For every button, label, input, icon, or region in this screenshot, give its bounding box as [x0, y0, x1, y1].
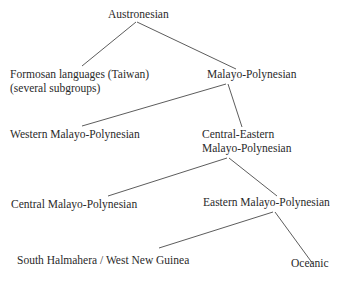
- edge-austronesian-formosan: [82, 22, 136, 66]
- node-label: Malayo-Polynesian: [207, 68, 296, 80]
- node-label: Austronesian: [108, 8, 169, 20]
- node-sublabel: Malayo-Polynesian: [202, 142, 291, 156]
- node-oceanic: Oceanic: [291, 257, 329, 271]
- node-label: Western Malayo-Polynesian: [10, 128, 140, 140]
- node-central-mp: Central Malayo-Polynesian: [11, 198, 137, 212]
- node-sublabel: (several subgroups): [10, 82, 149, 96]
- edge-eastern-shwng: [159, 212, 273, 248]
- edge-austronesian-malayo-polynesian: [137, 22, 236, 69]
- node-label: Formosan languages (Taiwan): [10, 68, 149, 82]
- node-formosan: Formosan languages (Taiwan) (several sub…: [10, 68, 149, 95]
- node-label: Eastern Malayo-Polynesian: [203, 196, 330, 208]
- edge-central-eastern-eastern: [229, 158, 277, 196]
- node-central-eastern-mp: Central-Eastern Malayo-Polynesian: [202, 128, 291, 155]
- node-shwng: South Halmahera / West New Guinea: [17, 254, 189, 268]
- node-eastern-mp: Eastern Malayo-Polynesian: [203, 196, 330, 210]
- node-label: Oceanic: [291, 257, 329, 269]
- node-western-mp: Western Malayo-Polynesian: [10, 128, 140, 142]
- node-label: Central Malayo-Polynesian: [11, 198, 137, 210]
- node-malayo-polynesian: Malayo-Polynesian: [207, 68, 296, 82]
- node-label: Central-Eastern: [202, 128, 291, 142]
- edge-central-eastern-central: [108, 158, 227, 196]
- node-label: South Halmahera / West New Guinea: [17, 254, 189, 266]
- edge-malayo-polynesian-central-eastern: [228, 84, 242, 127]
- node-austronesian: Austronesian: [108, 8, 169, 22]
